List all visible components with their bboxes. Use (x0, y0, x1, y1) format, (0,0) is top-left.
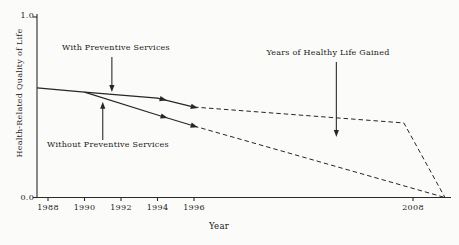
x-tick-label: 1988 (37, 203, 59, 212)
x-axis-title: Year (209, 222, 229, 231)
line-arrowhead-marker-without-preventive (190, 123, 198, 130)
chart-canvas: 198819901992199419962008 (0, 0, 459, 245)
y-axis-title: Health-Related Quality of Life (16, 28, 24, 157)
annotation-arrowhead-without (100, 102, 105, 109)
y-tick-label-bottom: 0.0 (21, 194, 34, 202)
annotation-arrowhead-with (109, 85, 114, 92)
line-arrowhead-marker-without-preventive (160, 113, 168, 120)
x-tick-label: 1994 (147, 203, 169, 212)
healthy-life-quality-chart: 198819901992199419962008 Health-Related … (0, 0, 459, 245)
line-arrowhead-marker-with-preventive (159, 96, 167, 103)
x-tick-label: 1992 (110, 203, 132, 212)
series-projection-without-preventive (194, 126, 445, 197)
x-tick-label: 1990 (74, 203, 96, 212)
series-projection-with-preventive (194, 107, 445, 197)
annotation-arrowhead-gained (334, 130, 339, 137)
x-tick-label: 1996 (183, 203, 205, 212)
annotation-label-with-preventive-services: With Preventive Services (62, 44, 170, 52)
x-tick-label: 2008 (402, 203, 424, 212)
series-line-without-preventive (85, 92, 195, 126)
annotation-label-without-preventive-services: Without Preventive Services (47, 141, 169, 149)
y-tick-label-top: 1.0 (21, 12, 34, 20)
series-line-with-preventive (37, 88, 194, 107)
annotation-label-years-of-healthy-life-gained: Years of Healthy Life Gained (266, 49, 389, 57)
